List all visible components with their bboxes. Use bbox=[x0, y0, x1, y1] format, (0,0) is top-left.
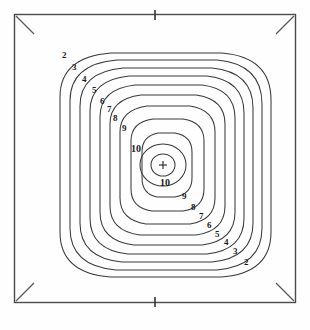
contour-label-lr-4: 4 bbox=[224, 237, 229, 247]
contour-label-ul-5: 5 bbox=[92, 85, 97, 95]
contour-label-lr-8: 8 bbox=[191, 202, 196, 212]
bottom-right-diagonal-icon bbox=[276, 283, 294, 301]
contour-label-ul-2: 2 bbox=[62, 50, 67, 60]
top-right-diagonal-icon bbox=[276, 16, 294, 34]
contour-label-ul-7: 7 bbox=[107, 104, 112, 114]
contour-label-lr-2: 2 bbox=[244, 257, 249, 267]
contour-level-6 bbox=[110, 95, 225, 235]
contour-labels-upper-left: 2 3 4 5 6 7 8 9 10 bbox=[62, 50, 141, 154]
contour-label-lr-9: 9 bbox=[182, 191, 187, 201]
contour-label-lr-7: 7 bbox=[199, 211, 204, 221]
contour-label-ul-3: 3 bbox=[72, 62, 77, 72]
contour-label-lr-5: 5 bbox=[215, 229, 220, 239]
contour-label-ul-10: 10 bbox=[131, 143, 141, 154]
corner-marks-group bbox=[16, 16, 294, 301]
bottom-left-diagonal-icon bbox=[16, 283, 34, 301]
contour-label-lr-10: 10 bbox=[160, 177, 170, 188]
contour-level-7 bbox=[120, 106, 215, 224]
contour-label-ul-6: 6 bbox=[100, 96, 105, 106]
contour-label-ul-8: 8 bbox=[113, 113, 118, 123]
top-left-diagonal-icon bbox=[16, 16, 34, 34]
center-marker bbox=[159, 161, 167, 169]
contour-label-ul-4: 4 bbox=[82, 74, 87, 84]
contour-label-lr-3: 3 bbox=[233, 246, 238, 256]
contour-label-lr-6: 6 bbox=[207, 220, 212, 230]
contour-label-ul-9: 9 bbox=[122, 123, 127, 133]
contour-plot-canvas: 2 3 4 5 6 7 8 9 10 10 9 8 7 6 5 4 3 2 bbox=[0, 0, 310, 330]
contour-plot-figure: 2 3 4 5 6 7 8 9 10 10 9 8 7 6 5 4 3 2 bbox=[0, 0, 310, 330]
